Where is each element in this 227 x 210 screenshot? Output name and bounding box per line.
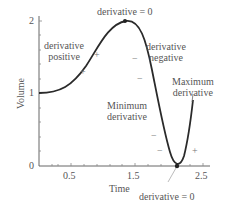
annotation-derivative-zero-top: derivative = 0 [97,6,153,17]
y-axis-label: Volume [15,74,26,114]
annotation-maximum-derivative: Maximum derivative [172,76,214,98]
x-tick-2-5: 2.5 [195,170,208,181]
annotation-line: positive [44,51,84,62]
annotation-line: negative [146,52,186,63]
annotation-derivative-positive: derivative positive [44,40,84,62]
x-tick-1-5: 1.5 [127,170,140,181]
x-axis-label: Time [109,183,130,194]
y-tick-0: 0 [29,160,34,171]
annotation-line: Minimum [107,100,147,111]
annotation-line: Maximum [172,76,214,87]
annotation-minimum-derivative: Minimum derivative [107,100,147,122]
max-point [123,19,127,23]
min-point [175,164,179,168]
y-tick-1: 1 [29,87,34,98]
bottom-pointer [168,168,176,182]
plus-sign: + [94,49,100,60]
minus-sign: − [157,145,163,156]
y-tick-2: 2 [29,15,34,26]
minus-sign: − [151,130,157,141]
plus-sign: + [192,145,198,156]
annotation-line: derivative [44,40,84,51]
annotation-derivative-negative: derivative negative [146,41,186,63]
annotation-line: derivative [146,41,186,52]
x-tick-0-5: 0.5 [63,170,76,181]
minus-sign: − [137,73,143,84]
annotation-line: derivative [172,87,214,98]
annotation-derivative-zero-bottom: derivative = 0 [139,191,195,202]
plus-sign: + [80,66,86,77]
annotation-line: derivative [107,111,147,122]
minus-sign: − [132,53,138,64]
